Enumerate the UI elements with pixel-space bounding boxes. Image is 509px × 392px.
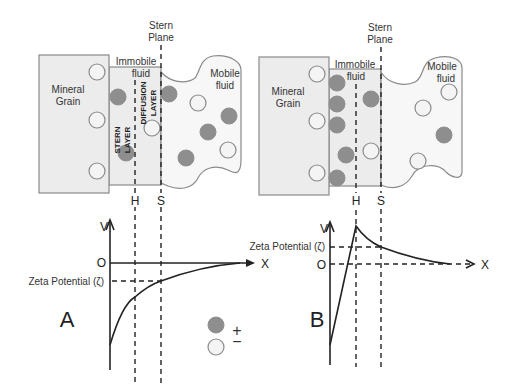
panel-label-a: A [60,307,75,332]
negative-ion [309,165,325,181]
stern-layer-label: STERN [113,126,122,153]
v-label-b: V [320,222,328,236]
x-label-a: X [261,257,269,271]
h-label-b: H [352,194,361,208]
legend: + − [208,317,242,355]
mobile-fluid-label-b-2: fluid [437,73,455,84]
negative-ion [441,84,457,100]
zeta-potential-label-b: Zeta Potential (ζ) [249,241,325,253]
negative-ion [309,113,325,129]
stern-plane-label-a-2: Plane [148,32,174,43]
panel-b-schematic: Stern Plane Immobile fluid Mineral Grain… [259,22,462,195]
negative-ion [309,66,325,82]
diffusion-layer-label-2: LAYER [149,90,158,117]
negative-ion [89,64,105,80]
electric-double-layer-diagram: Stern Plane Immobile fluid Mineral Grain… [0,0,509,392]
negative-ion [220,142,236,158]
mineral-grain-label-a-2: Grain [56,96,80,107]
s-label-b: S [377,194,385,208]
positive-ion [200,124,216,140]
legend-negative-symbol: − [232,333,241,350]
stern-layer-label-2: LAYER [123,127,132,154]
mineral-grain-label-b: Mineral [272,86,305,97]
mobile-fluid-label-a: Mobile [210,68,240,79]
h-label-a: H [131,194,140,208]
negative-ion [190,95,206,111]
positive-ion [329,170,345,186]
immobile-fluid-label-b: Immobile [335,59,376,70]
negative-ion [415,100,431,116]
x-axis-arrow-a [246,259,255,267]
panel-a-schematic: Stern Plane Immobile fluid Mineral Grain… [39,20,241,193]
legend-positive-ion-icon [208,317,224,333]
legend-negative-ion-icon [208,339,224,355]
potential-curve-b [330,226,450,345]
v-label-a: V [100,220,108,234]
mineral-grain-label-a: Mineral [52,84,85,95]
immobile-fluid-label-a-2: fluid [132,68,150,79]
stern-plane-label-a: Stern [149,20,173,31]
negative-ion [410,153,426,169]
mobile-fluid-label-b: Mobile [427,61,457,72]
s-label-a: S [157,194,165,208]
panel-label-b: B [310,307,325,332]
mobile-fluid-label-a-2: fluid [216,80,234,91]
negative-ion [363,143,379,159]
positive-ion [329,96,345,112]
stern-plane-label-b-2: Plane [367,34,393,45]
positive-ion [221,108,237,124]
diffusion-layer-label: DIFFUSION [139,81,148,124]
positive-ion [436,127,452,143]
zeta-potential-label-a: Zeta Potential (ζ) [28,276,104,288]
positive-ion [161,86,177,102]
origin-label-a: O [97,256,106,270]
immobile-fluid-label-a: Immobile [116,56,157,67]
mineral-grain-label-b-2: Grain [276,98,300,109]
negative-ion [89,163,105,179]
positive-ion [329,75,345,91]
stern-plane-label-b: Stern [368,22,392,33]
positive-ion [178,150,194,166]
positive-ion [329,117,345,133]
panel-b-graph: H S V O X Zeta Potential (ζ) B [249,193,489,365]
positive-ion [110,89,126,105]
x-label-b: X [481,258,489,272]
immobile-fluid-label-b-2: fluid [347,71,365,82]
positive-ion [338,147,354,163]
origin-label-b: O [317,258,326,272]
potential-curve-a [110,263,240,345]
positive-ion [363,91,379,107]
negative-ion [89,112,105,128]
